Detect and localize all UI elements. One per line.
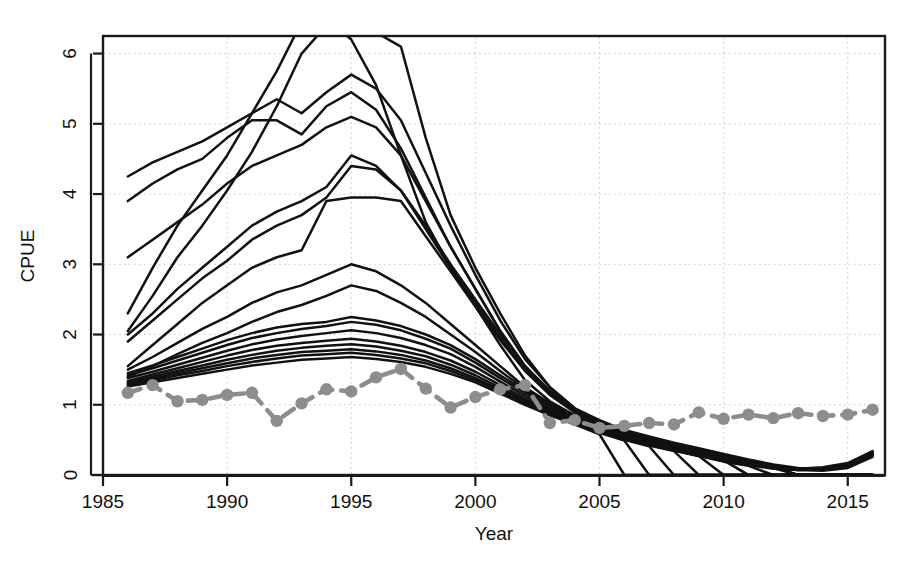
observed-point: [370, 371, 382, 383]
x-tick-label-2005: 2005: [578, 491, 620, 512]
observed-point: [122, 387, 134, 399]
observed-point: [519, 379, 531, 391]
model-line: [128, 92, 873, 471]
x-axis-title: Year: [475, 523, 514, 544]
x-tick-label-2010: 2010: [702, 491, 744, 512]
y-tick-label-0: 0: [60, 470, 81, 481]
observed-point: [643, 417, 655, 429]
observed-point: [842, 408, 854, 420]
observed-point: [395, 363, 407, 375]
observed-point: [420, 382, 432, 394]
observed-point: [767, 412, 779, 424]
observed-point: [668, 418, 680, 430]
observed-point: [196, 394, 208, 406]
observed-point: [817, 410, 829, 422]
observed-point: [444, 401, 456, 413]
y-tick-label-3: 3: [60, 259, 81, 270]
x-tick-label-2015: 2015: [827, 491, 869, 512]
x-tick-label-1995: 1995: [330, 491, 372, 512]
model-line: [128, 18, 873, 469]
model-line: [128, 22, 873, 469]
observed-point: [618, 420, 630, 432]
observed-point: [246, 387, 258, 399]
y-tick-label-5: 5: [60, 119, 81, 130]
tick-marks-group: [91, 54, 885, 486]
y-tick-label-2: 2: [60, 329, 81, 340]
observed-point: [146, 379, 158, 391]
observed-point: [544, 417, 556, 429]
observed-point: [271, 415, 283, 427]
cpue-retrospective-figure: 01234561985199019952000200520102015 Year…: [0, 0, 920, 565]
model-line: [128, 339, 873, 475]
model-lines-group: [128, 18, 873, 475]
tick-labels-group: 01234561985199019952000200520102015: [60, 48, 869, 512]
observed-point: [742, 408, 754, 420]
observed-point: [295, 397, 307, 409]
observed-point: [469, 391, 481, 403]
y-tick-label-1: 1: [60, 399, 81, 410]
x-tick-label-1990: 1990: [206, 491, 248, 512]
x-tick-label-2000: 2000: [454, 491, 496, 512]
observed-point: [568, 414, 580, 426]
observed-point: [717, 413, 729, 425]
observed-points-group: [122, 363, 879, 434]
observed-point: [171, 395, 183, 407]
chart-canvas: 01234561985199019952000200520102015 Year…: [0, 0, 920, 565]
observed-point: [345, 385, 357, 397]
plot-border: [103, 36, 885, 475]
observed-point: [593, 422, 605, 434]
observed-point: [320, 383, 332, 395]
observed-point: [693, 406, 705, 418]
x-tick-label-1985: 1985: [82, 491, 124, 512]
y-tick-label-6: 6: [60, 48, 81, 59]
observed-point: [866, 403, 878, 415]
observed-point: [792, 407, 804, 419]
y-axis-title: CPUE: [17, 230, 38, 283]
y-tick-label-4: 4: [60, 188, 81, 199]
gridlines-group: [104, 37, 884, 474]
observed-point: [221, 389, 233, 401]
observed-point: [494, 383, 506, 395]
plot-frame: [103, 36, 885, 475]
